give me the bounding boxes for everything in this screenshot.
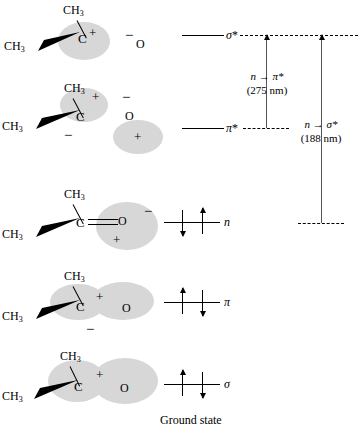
transition-wavelength: (188 nm)	[301, 132, 342, 144]
dashed-level-sigma-star	[240, 35, 358, 36]
transition-diagram: n → π* (275 nm) n → σ* (188 nm)	[0, 0, 363, 434]
transition-name: n → σ*	[305, 118, 338, 130]
transition-label-n-to-pi-star: n → π* (275 nm)	[218, 70, 316, 98]
transition-label-n-to-sigma-star: n → σ* (188 nm)	[272, 118, 363, 146]
transition-wavelength: (275 nm)	[247, 84, 288, 96]
dashed-level-n	[298, 223, 344, 224]
mo-energy-diagram: CH3 CH3 C + − O σ* CH3 + CH3 C − − O + π…	[0, 0, 363, 434]
transition-name: n → π*	[250, 70, 283, 82]
